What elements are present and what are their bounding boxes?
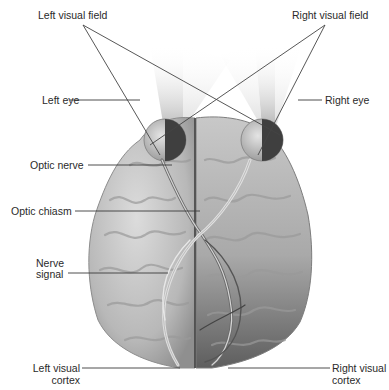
label-optic-nerve: Optic nerve: [30, 159, 84, 171]
label-right-visual-cortex-1: Right visual: [332, 362, 386, 374]
label-right-eye: Right eye: [325, 94, 369, 106]
right-visual-field-cone: [220, 45, 300, 130]
label-left-visual-field: Left visual field: [38, 9, 107, 21]
label-left-visual-cortex-1: Left visual: [14, 362, 80, 374]
label-optic-chiasm: Optic chiasm: [11, 205, 72, 217]
label-right-visual-cortex-2: cortex: [332, 374, 361, 386]
brain-illustration: [0, 0, 389, 390]
label-nerve-signal-2: signal: [36, 268, 63, 280]
left-eyeball: [144, 119, 186, 161]
label-left-visual-cortex-2: cortex: [14, 374, 80, 386]
visual-pathway-diagram: Left visual field Right visual field Lef…: [0, 0, 389, 390]
label-right-visual-field: Right visual field: [292, 9, 368, 21]
label-left-eye: Left eye: [42, 94, 79, 106]
